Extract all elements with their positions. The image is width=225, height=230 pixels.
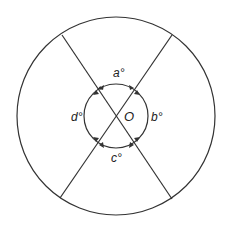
circle-angle-diagram: a° b° c° d° O bbox=[0, 0, 225, 230]
center-label-o: O bbox=[124, 109, 134, 124]
arrowhead-a-left-icon bbox=[99, 85, 104, 90]
angle-label-d: d° bbox=[71, 110, 83, 124]
angle-label-b: b° bbox=[151, 110, 163, 124]
angle-label-c: c° bbox=[111, 151, 122, 165]
angle-label-a: a° bbox=[113, 66, 125, 80]
